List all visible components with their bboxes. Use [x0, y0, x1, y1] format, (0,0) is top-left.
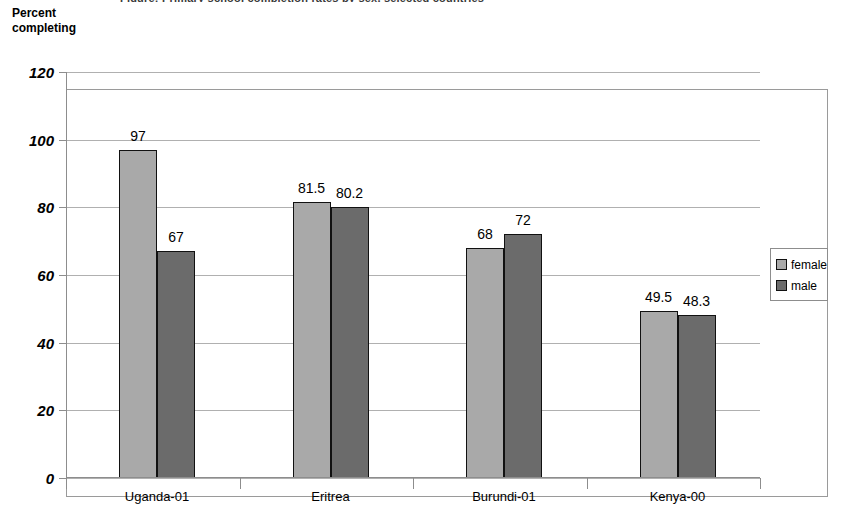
bar-kenya-00-female[interactable] — [640, 311, 678, 478]
y-tick-mark-120 — [59, 72, 67, 73]
bar-value-label-kenya-00-male: 48.3 — [683, 293, 710, 309]
y-tick-label-20: 20 — [0, 402, 54, 419]
x-tick-3 — [587, 478, 588, 489]
y-tick-label-0: 0 — [0, 470, 54, 487]
x-axis-label-kenya-00: Kenya-00 — [650, 489, 706, 504]
y-tick-mark-40 — [59, 343, 67, 344]
bar-burundi-01-female[interactable] — [466, 248, 504, 478]
y-tick-label-40: 40 — [0, 334, 54, 351]
y-axis-title: Percent completing — [12, 6, 76, 36]
y-tick-mark-60 — [59, 275, 67, 276]
gridline-100 — [66, 140, 760, 141]
y-tick-mark-100 — [59, 140, 67, 141]
bar-value-label-uganda-01-male: 67 — [168, 229, 184, 245]
plot-inner — [66, 72, 760, 478]
bar-kenya-00-male[interactable] — [678, 315, 716, 478]
legend-label-female: female — [791, 258, 827, 272]
bar-value-label-kenya-00-female: 49.5 — [645, 289, 672, 305]
bar-uganda-01-female[interactable] — [119, 150, 157, 478]
chart-container: Figure: Primary school completion rates … — [0, 0, 858, 525]
legend-item-male[interactable]: male — [776, 275, 823, 296]
bar-value-label-eritrea-male: 80.2 — [336, 185, 363, 201]
y-tick-label-100: 100 — [0, 131, 54, 148]
gridline-120 — [66, 72, 760, 73]
x-tick-end — [760, 478, 761, 489]
bar-value-label-eritrea-female: 81.5 — [298, 180, 325, 196]
bar-value-label-uganda-01-female: 97 — [130, 128, 146, 144]
bar-burundi-01-male[interactable] — [504, 234, 542, 478]
x-tick-1 — [240, 478, 241, 489]
x-tick-2 — [413, 478, 414, 489]
x-axis-label-uganda-01: Uganda-01 — [125, 489, 189, 504]
bar-value-label-burundi-01-female: 68 — [477, 226, 493, 242]
plot-area — [66, 72, 760, 478]
legend-swatch-female — [776, 259, 787, 270]
y-tick-mark-80 — [59, 207, 67, 208]
x-axis-label-burundi-01: Burundi-01 — [472, 489, 536, 504]
y-tick-label-60: 60 — [0, 267, 54, 284]
x-tick-0 — [66, 478, 67, 489]
bar-value-label-burundi-01-male: 72 — [515, 212, 531, 228]
bar-eritrea-female[interactable] — [293, 202, 331, 478]
chart-title-remnant: Figure: Primary school completion rates … — [120, 0, 720, 2]
legend: female male — [770, 248, 828, 301]
gridline-80 — [66, 207, 760, 208]
legend-label-male: male — [791, 279, 817, 293]
bar-uganda-01-male[interactable] — [157, 251, 195, 478]
legend-swatch-male — [776, 280, 787, 291]
x-axis-label-eritrea: Eritrea — [311, 489, 349, 504]
legend-item-female[interactable]: female — [776, 254, 823, 275]
y-tick-mark-20 — [59, 410, 67, 411]
y-tick-label-120: 120 — [0, 64, 54, 81]
bar-eritrea-male[interactable] — [331, 207, 369, 478]
y-tick-label-80: 80 — [0, 199, 54, 216]
